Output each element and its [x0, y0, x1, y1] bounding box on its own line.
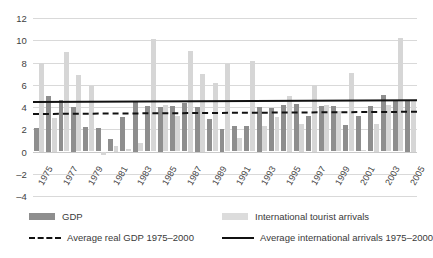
bar-gdp-1977 [59, 100, 64, 151]
bar-arrivals-1990 [225, 64, 230, 152]
bar-arrivals-2004 [398, 38, 403, 151]
bar-gdp-1985 [158, 107, 163, 152]
bar-gdp-2004 [393, 100, 398, 151]
x-tick-label-1975: 1975 [36, 164, 55, 187]
y-tick-label: 12 [16, 13, 27, 24]
bar-gdp-1990 [220, 129, 225, 151]
bar-arrivals-1986 [175, 116, 180, 152]
x-tick-label-1991: 1991 [234, 164, 253, 187]
bar-gdp-1982 [120, 117, 125, 151]
legend-label-arrivals: International tourist arrivals [255, 212, 369, 222]
bar-gdp-2005 [405, 101, 410, 151]
y-tick-label: –4 [16, 191, 27, 202]
bar-gdp-1984 [145, 106, 150, 152]
x-tick-label-1995: 1995 [284, 164, 303, 187]
gridline--4: –4 [33, 196, 417, 197]
y-tick-label: 4 [22, 102, 27, 113]
x-tick-label-1993: 1993 [259, 164, 278, 187]
bar-arrivals-2005 [411, 101, 416, 151]
bar-gdp-1988 [195, 107, 200, 152]
bar-arrivals-1976 [52, 118, 57, 151]
y-tick-label: 6 [22, 79, 27, 90]
chart-legend: GDP International tourist arrivals Avera… [0, 210, 427, 258]
bar-gdp-1978 [71, 107, 76, 152]
bar-gdp-1979 [83, 127, 88, 151]
x-tick-label-1983: 1983 [135, 164, 154, 187]
x-tick-label-1977: 1977 [61, 164, 80, 187]
bar-arrivals-1984 [151, 39, 156, 151]
x-axis-labels: 1975197719791981198319851987198919911993… [33, 156, 417, 196]
bar-gdp-2003 [381, 95, 386, 152]
bar-arrivals-1975 [39, 63, 44, 152]
bar-gdp-1991 [232, 126, 237, 152]
x-tick-label-1997: 1997 [309, 164, 328, 187]
x-tick-label-1979: 1979 [86, 164, 105, 187]
bar-gdp-2001 [356, 116, 361, 152]
bar-arrivals-2001 [361, 150, 366, 151]
gdp-swatch-icon [29, 213, 55, 220]
bar-arrivals-1998 [324, 105, 329, 152]
dashed-line-icon [29, 237, 61, 239]
bar-gdp-2002 [368, 106, 373, 152]
bar-arrivals-2002 [374, 124, 379, 152]
y-tick-label: 10 [16, 35, 27, 46]
y-tick-label: –2 [16, 168, 27, 179]
x-tick-label-1985: 1985 [160, 164, 179, 187]
bar-arrivals-1983 [138, 143, 143, 152]
bar-arrivals-1987 [188, 51, 193, 151]
bar-arrivals-1978 [76, 75, 81, 152]
legend-item-gdp: GDP [29, 212, 83, 222]
bar-arrivals-2000 [349, 73, 354, 152]
bar-gdp-2000 [343, 125, 348, 152]
bar-arrivals-1991 [237, 138, 242, 151]
legend-label-gdp: GDP [62, 212, 83, 222]
bar-arrivals-1981 [114, 146, 119, 152]
bar-arrivals-1977 [64, 52, 69, 151]
legend-item-arrivals: International tourist arrivals [222, 212, 369, 222]
legend-item-avg-gdp: Average real GDP 1975–2000 [29, 233, 194, 243]
bar-gdp-1996 [294, 104, 299, 152]
bar-gdp-1992 [244, 126, 249, 152]
x-tick-label-1989: 1989 [210, 164, 229, 187]
bar-gdp-1981 [108, 139, 113, 151]
bar-gdp-1975 [34, 128, 39, 151]
bar-gdp-1993 [257, 107, 262, 152]
bar-gdp-1976 [46, 96, 51, 152]
y-tick-label: 0 [22, 146, 27, 157]
x-tick-label-2005: 2005 [408, 164, 427, 187]
bar-gdp-1994 [269, 108, 274, 151]
bar-arrivals-1999 [336, 111, 341, 151]
solid-line-icon [222, 237, 254, 239]
x-tick-label-1999: 1999 [333, 164, 352, 187]
bar-arrivals-1985 [163, 105, 168, 152]
legend-label-avg-gdp: Average real GDP 1975–2000 [67, 233, 194, 243]
bar-gdp-1980 [96, 128, 101, 151]
x-tick-label-2001: 2001 [358, 164, 377, 187]
bar-arrivals-1989 [213, 83, 218, 152]
y-tick-label: 2 [22, 124, 27, 135]
bar-gdp-1998 [319, 106, 324, 152]
bar-gdp-1999 [331, 106, 336, 152]
bar-gdp-1986 [170, 106, 175, 152]
bar-arrivals-1996 [299, 124, 304, 152]
x-tick-label-1987: 1987 [185, 164, 204, 187]
bar-arrivals-1982 [126, 149, 131, 151]
x-tick-label-2003: 2003 [383, 164, 402, 187]
bar-arrivals-1980 [101, 152, 106, 155]
legend-label-avg-arrivals: Average international arrivals 1975–2000 [260, 233, 433, 243]
bar-gdp-1983 [133, 101, 138, 151]
bar-gdp-1987 [182, 103, 187, 152]
bar-arrivals-2003 [386, 105, 391, 152]
bar-arrivals-1997 [312, 85, 317, 152]
bar-arrivals-1988 [200, 74, 205, 152]
bar-gdp-1989 [207, 119, 212, 151]
bar-gdp-1995 [281, 105, 286, 152]
arrivals-swatch-icon [222, 213, 248, 220]
bar-arrivals-1993 [262, 126, 267, 152]
bar-gdp-1997 [306, 116, 311, 152]
bar-arrivals-1994 [275, 117, 280, 151]
y-tick-label: 8 [22, 57, 27, 68]
bar-arrivals-1979 [89, 86, 94, 152]
x-tick-label-1981: 1981 [111, 164, 130, 187]
